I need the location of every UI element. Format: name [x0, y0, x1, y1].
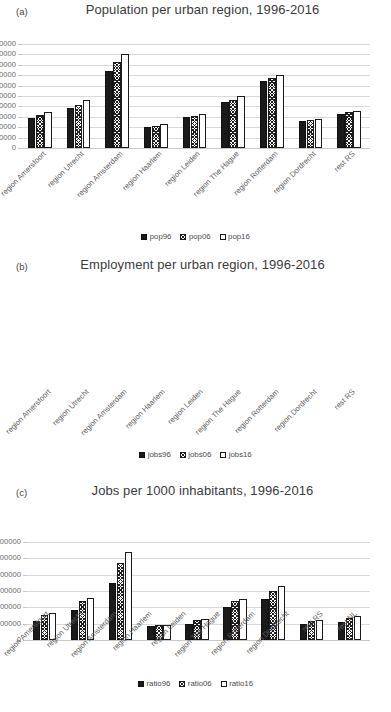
legend-item-pop16: pop16 — [220, 232, 250, 241]
bar-pop96-region-dordrecht — [299, 121, 307, 148]
bar-pop16-region-the-hague — [237, 96, 245, 148]
y-tick-label: 600000 — [0, 113, 16, 121]
figure-root: (a) Population per urban region, 1996-20… — [0, 0, 391, 712]
legend-item-ratio16: ratio16 — [221, 679, 253, 688]
y-tick-label: 800000 — [0, 103, 16, 111]
bar-pop06-region-rotterdam — [268, 78, 276, 148]
legend-item-jobs16: jobs16 — [220, 450, 251, 459]
legend-item-jobs96: jobs96 — [139, 450, 170, 459]
y-tick-label: 1800000 — [0, 51, 16, 59]
legend-label: jobs96 — [148, 450, 171, 459]
legend-swatch-icon — [220, 452, 226, 458]
bar-pop16-region-leiden — [199, 114, 207, 148]
y-tick-label: 1400000 — [0, 71, 16, 79]
bar-pop16-region-amsterdam — [121, 54, 129, 148]
bar-pop96-region-leiden — [183, 117, 191, 148]
bar-pop96-region-utrecht — [67, 108, 75, 148]
y-tick-label: 200000 — [0, 134, 16, 142]
legend-label: jobs06 — [188, 450, 211, 459]
legend-label: pop16 — [228, 232, 250, 241]
panel-b: (b) Employment per urban region, 1996-20… — [0, 255, 391, 481]
bar-pop96-region-the-hague — [221, 102, 229, 148]
panel-c-legend: ratio96ratio06ratio16 — [0, 679, 391, 688]
panel-a-title: Population per urban region, 1996-2016 — [0, 2, 391, 17]
legend-swatch-icon — [220, 234, 226, 240]
y-tick-label: 1200000 — [0, 82, 16, 90]
legend-label: pop06 — [189, 232, 211, 241]
bar-pop16-region-dordrecht — [315, 119, 323, 148]
bar-pop16-region-utrecht — [83, 100, 91, 148]
bar-pop96-rest-rs — [337, 114, 345, 148]
y-tick-label: 0 — [12, 144, 16, 152]
bar-pop06-rest-rs — [345, 112, 353, 148]
bar-pop16-region-rotterdam — [276, 75, 284, 148]
panel-c-title: Jobs per 1000 inhabitants, 1996-2016 — [0, 483, 391, 498]
bar-pop06-region-amsterdam — [113, 62, 121, 148]
legend-swatch-icon — [180, 234, 186, 240]
legend-swatch-icon — [179, 681, 185, 687]
bar-pop06-region-the-hague — [229, 100, 237, 148]
bar-pop06-region-utrecht — [75, 105, 83, 148]
legend-item-ratio06: ratio06 — [179, 679, 211, 688]
panel-a-plot: 0200000400000600000800000100000012000001… — [22, 44, 370, 148]
bar-pop16-region-haarlem — [160, 124, 168, 148]
panel-a: (a) Population per urban region, 1996-20… — [0, 0, 391, 255]
y-tick — [18, 148, 22, 149]
legend-swatch-icon — [139, 452, 145, 458]
bar-pop96-region-rotterdam — [260, 81, 268, 148]
legend-label: ratio06 — [188, 679, 212, 688]
legend-item-pop96: pop96 — [141, 232, 171, 241]
panel-c: (c) Jobs per 1000 inhabitants, 1996-2016… — [0, 481, 391, 712]
bar-pop96-region-amersfoort — [28, 118, 36, 148]
legend-item-pop06: pop06 — [180, 232, 210, 241]
bar-pop16-region-amersfoort — [44, 112, 52, 148]
bar-pop06-region-leiden — [191, 116, 199, 148]
bar-pop16-rest-rs — [353, 111, 361, 148]
legend-swatch-icon — [141, 234, 147, 240]
bar-pop06-region-haarlem — [152, 126, 160, 148]
panel-a-y-axis: 0200000400000600000800000100000012000001… — [0, 44, 20, 148]
gridline — [22, 148, 370, 149]
bar-pop06-region-dordrecht — [307, 120, 315, 148]
y-tick-label: 1000000 — [0, 92, 16, 100]
panel-a-bars — [22, 44, 370, 148]
legend-swatch-icon — [138, 681, 144, 687]
legend-swatch-icon — [180, 452, 186, 458]
legend-label: ratio16 — [229, 679, 253, 688]
panel-b-legend: jobs96jobs06jobs16 — [0, 450, 391, 459]
bar-pop06-region-amersfoort — [36, 115, 44, 148]
panel-a-legend: pop96pop06pop16 — [0, 232, 391, 241]
y-tick-label: 400000 — [0, 123, 16, 131]
bar-pop96-region-amsterdam — [105, 71, 113, 148]
y-tick-label: 1600000 — [0, 61, 16, 69]
legend-item-jobs06: jobs06 — [180, 450, 211, 459]
bar-pop96-region-haarlem — [144, 127, 152, 148]
legend-label: ratio96 — [146, 679, 170, 688]
legend-swatch-icon — [221, 681, 227, 687]
legend-item-ratio96: ratio96 — [138, 679, 170, 688]
panel-b-title: Employment per urban region, 1996-2016 — [0, 257, 391, 272]
legend-label: jobs16 — [229, 450, 252, 459]
legend-label: pop96 — [150, 232, 172, 241]
y-tick-label: 2000000 — [0, 40, 16, 48]
